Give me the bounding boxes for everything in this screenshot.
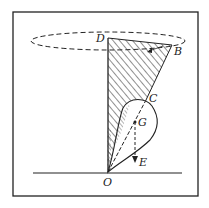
weight-arrowhead (132, 156, 138, 163)
label-E: E (138, 156, 147, 169)
label-B: B (173, 45, 182, 58)
label-O: O (103, 176, 112, 189)
label-D: D (95, 32, 105, 45)
label-G: G (138, 116, 147, 129)
point-G (134, 121, 137, 124)
axis-shading (107, 130, 111, 170)
label-C: C (149, 92, 158, 105)
frame (13, 12, 198, 196)
top-precession-diagram: D B C G E O (0, 0, 209, 208)
